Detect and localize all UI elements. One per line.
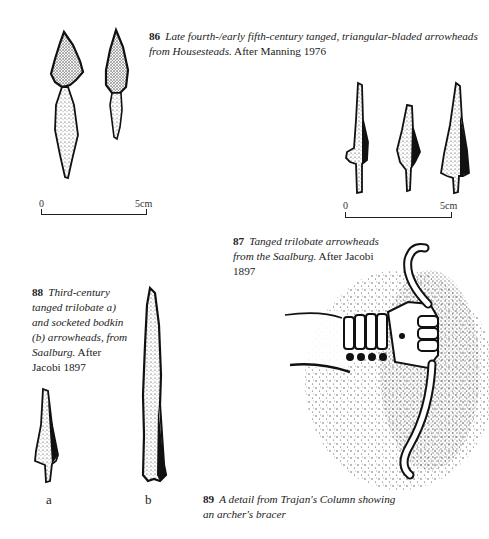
caption-86: 86Late fourth-/early fifth-century tange… [149, 29, 479, 59]
figure-87-drawing [330, 80, 470, 195]
scale-bar-87 [345, 212, 452, 218]
label-b: b [145, 492, 152, 508]
caption-text-89: A detail from Trajan's Column showing an… [203, 493, 395, 520]
label-a: a [46, 492, 52, 508]
figure-89-drawing [280, 260, 489, 500]
figure-88-drawing [30, 285, 160, 485]
figure-number-87: 87 [233, 235, 244, 247]
figure-86-drawing [20, 25, 150, 195]
figure-number-86: 86 [149, 30, 160, 42]
arrowheads-88 [30, 285, 160, 485]
scale-start-label-86: 0 [39, 198, 44, 209]
scale-start-label-87: 0 [343, 200, 348, 211]
scale-bar-86 [41, 209, 147, 215]
archer-bracer-drawing [280, 260, 489, 500]
figure-number-89: 89 [203, 493, 214, 505]
arrowhead-drawing-86 [20, 25, 150, 195]
caption-89: 89A detail from Trajan's Column showing … [203, 492, 403, 522]
trilobate-arrowheads-87 [330, 80, 470, 195]
caption-credit-86: After Manning 1976 [234, 45, 326, 57]
scale-end-label-86: 5cm [135, 198, 152, 209]
scale-end-label-87: 5cm [440, 200, 457, 211]
